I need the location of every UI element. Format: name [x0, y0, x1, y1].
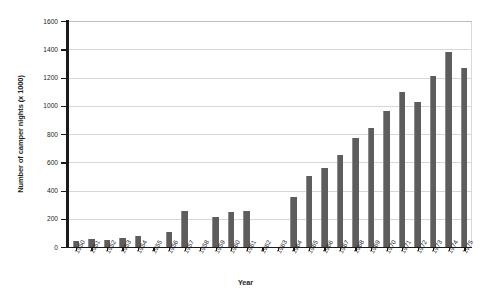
y-axis-tick-label: 1400	[28, 46, 58, 53]
plot-area	[68, 21, 472, 247]
y-axis-tick	[61, 49, 66, 50]
y-axis-line	[66, 20, 69, 248]
y-axis-tick	[61, 247, 66, 248]
y-axis-tick-label: 0	[28, 244, 58, 251]
bar	[352, 138, 359, 247]
gridline	[68, 106, 472, 107]
bar	[445, 52, 452, 247]
y-axis-tick-label: 800	[28, 131, 58, 138]
bar	[306, 176, 313, 247]
bar	[414, 102, 421, 247]
y-axis-tick-label: 600	[28, 159, 58, 166]
y-axis-tick	[61, 219, 66, 220]
y-axis-tick	[61, 162, 66, 163]
y-axis-tick-label: 1600	[28, 18, 58, 25]
x-axis-title: Year	[0, 278, 491, 287]
gridline	[68, 78, 472, 79]
bar	[383, 111, 390, 247]
y-axis-tick-label: 1000	[28, 102, 58, 109]
bar	[430, 76, 437, 247]
bar	[399, 92, 406, 247]
gridline	[68, 219, 472, 220]
bar	[368, 128, 375, 247]
y-axis-tick-label: 1200	[28, 74, 58, 81]
gridline	[68, 49, 472, 50]
y-axis-tick-label: 400	[28, 187, 58, 194]
y-axis-tick-label: 200	[28, 215, 58, 222]
y-axis-tick	[61, 21, 66, 22]
y-axis-tick	[61, 78, 66, 79]
bar-chart: Number of camper nights (x 1000) Year 02…	[0, 0, 491, 300]
y-axis-tick	[61, 191, 66, 192]
gridline	[68, 134, 472, 135]
gridline	[68, 21, 472, 22]
y-axis-tick	[61, 134, 66, 135]
bar	[337, 155, 344, 247]
y-axis-title: Number of camper nights (x 1000)	[14, 21, 28, 247]
gridline	[68, 191, 472, 192]
bar	[321, 168, 328, 247]
y-axis-tick	[61, 106, 66, 107]
gridline	[68, 162, 472, 163]
bar	[461, 68, 468, 247]
